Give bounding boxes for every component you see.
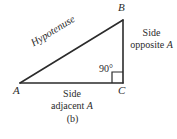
side-adjacent-label: Side adjacent A xyxy=(30,88,114,112)
figure-caption: (b) xyxy=(0,114,145,124)
side-adjacent-line2: adjacent xyxy=(51,100,84,111)
vertex-label-b: B xyxy=(118,2,125,13)
vertex-label-a: A xyxy=(13,85,20,96)
right-angle-marker xyxy=(112,72,123,83)
side-adjacent-line1: Side xyxy=(63,88,81,99)
side-opposite-line1: Side xyxy=(143,27,161,38)
right-angle-label: 90° xyxy=(99,64,113,74)
side-opposite-label: Side opposite A xyxy=(126,27,177,51)
right-triangle-figure: A B C 90° Hypotenuse Side opposite A Sid… xyxy=(0,0,177,139)
side-opposite-variable: A xyxy=(167,39,173,50)
vertex-label-c: C xyxy=(118,85,125,96)
side-opposite-line2: opposite xyxy=(130,39,164,50)
side-adjacent-variable: A xyxy=(87,100,93,111)
